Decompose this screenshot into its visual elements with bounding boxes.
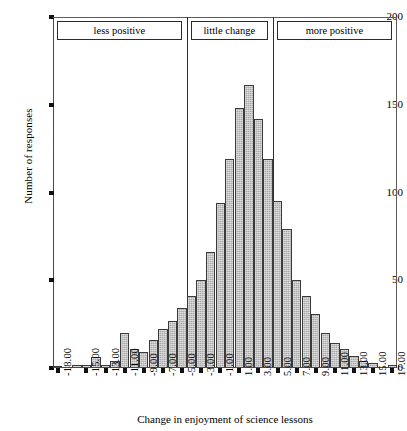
histogram-bar <box>273 201 282 368</box>
x-axis-tick-label: -3.00 <box>205 353 216 376</box>
histogram-bar <box>120 333 129 368</box>
x-axis-tick-mark <box>218 368 222 373</box>
histogram-bar <box>263 159 272 368</box>
x-axis-tick-label: 1.00 <box>243 357 254 376</box>
x-axis-tick-mark <box>314 368 318 373</box>
x-axis-tick-mark <box>256 368 260 373</box>
x-axis-tick-mark <box>352 368 356 373</box>
x-axis-tick-label: 3.00 <box>262 357 273 376</box>
histogram-bar <box>206 252 215 368</box>
histogram-bar <box>235 108 244 368</box>
x-axis-tick-label: -5.00 <box>186 353 197 376</box>
x-axis-tick-label: 13.00 <box>358 351 369 376</box>
x-axis-tick-label: 7.00 <box>301 357 312 376</box>
histogram-bar <box>292 280 301 368</box>
x-axis-tick-mark <box>84 368 88 373</box>
x-axis-tick-label: -7.00 <box>167 353 178 376</box>
x-axis-tick-label: -18.00 <box>62 348 73 376</box>
x-axis-tick-label: -15.00 <box>90 348 101 376</box>
histogram-bar <box>244 85 253 368</box>
x-axis-tick-label: 5.00 <box>282 357 293 376</box>
histogram-bar <box>225 159 234 368</box>
x-axis-tick-mark <box>237 368 241 373</box>
x-axis-tick-mark <box>295 368 299 373</box>
x-axis-tick-label: 11.00 <box>339 352 350 376</box>
histogram-bar <box>282 229 291 368</box>
x-axis-tick-mark <box>123 368 127 373</box>
x-axis-tick-label: -9.00 <box>148 353 159 376</box>
x-axis-tick-mark <box>161 368 165 373</box>
x-axis-tick-mark <box>199 368 203 373</box>
y-axis-title: Number of responses <box>22 36 34 276</box>
x-axis-tick-label: -13.00 <box>110 348 121 376</box>
x-axis-tick-label: 15.00 <box>377 351 388 376</box>
x-axis-tick-mark <box>180 368 184 373</box>
x-axis-tick-label: 9.00 <box>320 357 331 376</box>
histogram-bar <box>254 119 263 368</box>
x-axis-tick-mark <box>276 368 280 373</box>
x-axis-tick-label: 17.00 <box>396 351 407 376</box>
x-axis-title: Change in enjoyment of science lessons <box>53 413 397 425</box>
x-axis-tick-mark <box>104 368 108 373</box>
histogram-bar <box>216 203 225 368</box>
x-axis-tick-mark <box>56 368 60 373</box>
bars-layer <box>53 17 397 368</box>
x-axis-tick-mark <box>371 368 375 373</box>
x-axis-tick-label: -11.00 <box>129 348 140 376</box>
x-axis-tick-label: -1.00 <box>224 353 235 376</box>
x-axis-tick-mark <box>390 368 394 373</box>
x-axis-tick-mark <box>142 368 146 373</box>
x-axis-tick-mark <box>333 368 337 373</box>
